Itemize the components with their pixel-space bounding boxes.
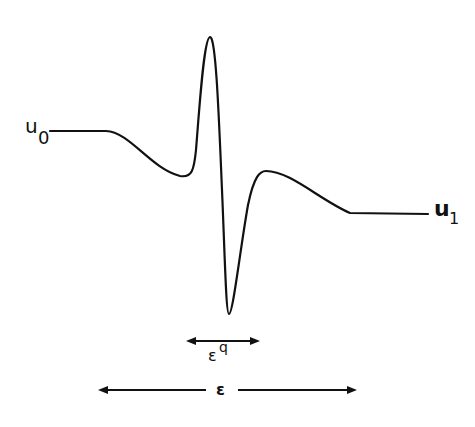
right-state-label: u <box>434 196 450 221</box>
right-state-subscript: 1 <box>449 209 459 228</box>
inner-width-exponent: q <box>219 339 228 355</box>
outer-width-label: ε <box>216 380 225 399</box>
shock-profile-diagram: u 0 u 1 ε q ε <box>0 0 475 427</box>
inner-width-label: ε <box>208 346 217 365</box>
left-state-subscript: 0 <box>38 127 49 148</box>
left-state-label: u <box>25 114 38 138</box>
wave-profile-curve <box>50 37 428 314</box>
outer-width-arrow <box>98 386 357 394</box>
